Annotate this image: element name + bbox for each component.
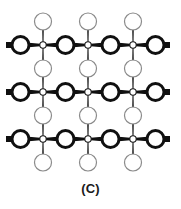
bridging-ligand-horizontal (57, 37, 74, 54)
bridging-ligand-vertical (80, 154, 97, 171)
lattice-diagram (0, 0, 181, 209)
metal-center (85, 136, 91, 142)
metal-center (85, 89, 91, 95)
bridging-ligand-horizontal (147, 131, 164, 148)
bridging-ligand-vertical (80, 107, 97, 124)
bridging-ligand-vertical (125, 60, 142, 77)
bridging-ligand-vertical (35, 154, 52, 171)
bridging-ligand-horizontal (102, 37, 119, 54)
metal-center (130, 136, 136, 142)
bridging-ligand-vertical (125, 107, 142, 124)
bridging-ligand-vertical (125, 154, 142, 171)
bridging-ligand-horizontal (147, 37, 164, 54)
metal-center (40, 136, 46, 142)
metal-center (85, 42, 91, 48)
bridging-ligand-vertical (35, 60, 52, 77)
bridging-ligand-vertical (80, 13, 97, 30)
lattice-layer (6, 13, 170, 171)
bridging-ligand-horizontal (57, 131, 74, 148)
bridging-ligand-vertical (80, 60, 97, 77)
bridging-ligand-horizontal (102, 84, 119, 101)
bridging-ligand-horizontal (147, 84, 164, 101)
metal-center (40, 42, 46, 48)
figure-caption-label: (C) (0, 181, 181, 196)
bridging-ligand-horizontal (12, 131, 29, 148)
bridging-ligand-horizontal (12, 84, 29, 101)
bridging-ligand-vertical (35, 107, 52, 124)
metal-center (130, 89, 136, 95)
bridging-ligand-horizontal (102, 131, 119, 148)
bridging-ligand-horizontal (57, 84, 74, 101)
metal-center (130, 42, 136, 48)
figure-container: (C) (0, 0, 181, 209)
bridging-ligand-vertical (125, 13, 142, 30)
bridging-ligand-horizontal (12, 37, 29, 54)
bridging-ligand-vertical (35, 13, 52, 30)
metal-center (40, 89, 46, 95)
